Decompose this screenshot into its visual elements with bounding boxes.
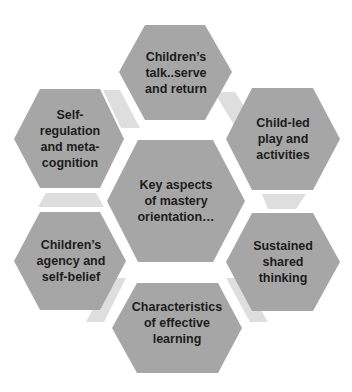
hex-upper-right <box>226 88 340 190</box>
hex-bottom <box>112 283 242 373</box>
hex-top <box>119 25 232 120</box>
hex-upper-left <box>14 89 124 188</box>
connector-upper-right-lower-right <box>262 194 306 209</box>
hex-center <box>107 140 245 262</box>
mastery-orientation-diagram <box>0 0 352 392</box>
connector-lower-left-upper-left <box>38 193 104 207</box>
